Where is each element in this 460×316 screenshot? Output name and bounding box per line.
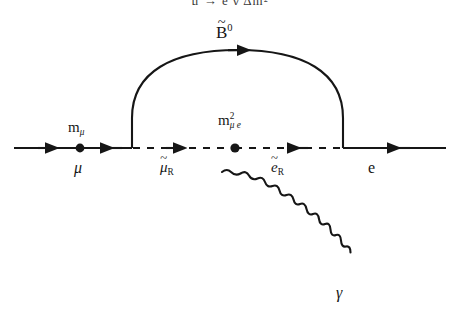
diagram-canvas [0,0,460,316]
muon-mass-label: mμ [68,120,84,135]
outgoing-electron-label: e [368,160,375,176]
feynman-diagram-figure: μ → e γ Δm² [0,0,460,316]
photon-label: γ [336,285,342,301]
smuon-tilde-mark: ~ [160,152,168,165]
bino-label: ~B0 [216,24,233,41]
bino-arc-line [132,50,343,148]
smuon-label: ~μR [160,160,174,175]
incoming-muon-label: μ [74,160,82,176]
selectron-tilde-mark: ~ [271,152,278,165]
selectron-subscript: R [278,167,284,177]
muon-mass-base: m [68,119,80,135]
photon-wavy-line [222,170,351,253]
slepton-mass-subscript: μ e [230,120,241,130]
slepton-mass-base: m [218,112,230,128]
selectron-label: ~eR [271,160,284,175]
slepton-mass-insertion-label: m2μ e [218,113,241,128]
bino-superscript: 0 [227,22,232,33]
bino-tilde-mark: ~ [216,15,227,29]
smuon-subscript: R [168,167,174,177]
muon-mass-subscript: μ [80,127,85,137]
